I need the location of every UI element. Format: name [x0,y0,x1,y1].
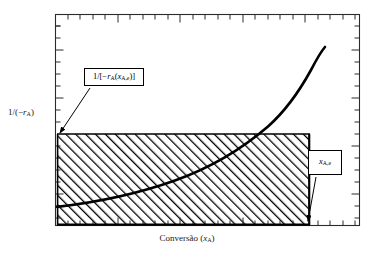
x-axis-label-prefix: Conversão ( [159,233,203,243]
callout-rate-suffix: )] [129,71,135,81]
y-axis-label: 1/(−rA) [8,108,34,117]
callout-conversion-subscript: A,e [323,161,331,167]
callout-box-rate-at-equilibrium: 1/[−rA(xA,e)] [84,68,144,86]
callout-rate-prefix: 1/[− [93,71,107,81]
callout-box-equilibrium-conversion: xA,e [308,150,342,175]
shaded-area-hatch [57,134,310,225]
y-axis-label-prefix: 1/(− [8,107,23,117]
x-axis-label-suffix: ) [212,233,215,243]
reaction-engineering-plot [0,0,374,259]
y-axis-label-suffix: ) [31,107,34,117]
x-axis-label: Conversão (xA) [0,234,374,243]
shaded-area [57,134,310,225]
